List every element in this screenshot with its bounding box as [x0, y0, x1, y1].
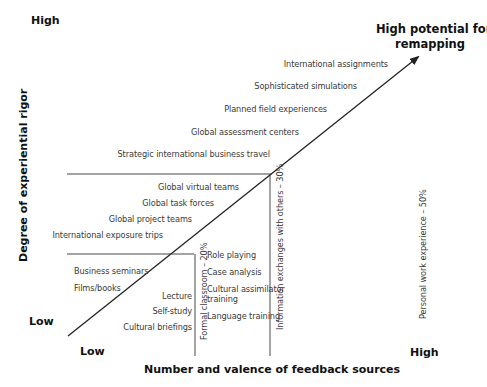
formal-classroom-item: Cultural assimilator [207, 284, 285, 294]
formal-classroom-label: Formal classroom – 20% [199, 243, 209, 340]
upper-item: Global assessment centers [191, 127, 299, 137]
lower-right-item: Self-study [152, 306, 192, 316]
middle-item: Global task forces [142, 198, 214, 208]
lower-left-item: Films/books [74, 283, 121, 293]
y-axis-high-label: High [31, 14, 60, 27]
formal-classroom-item: training [207, 294, 238, 304]
x-axis-title: Number and valence of feedback sources [144, 363, 400, 376]
middle-item: Global project teams [109, 214, 192, 224]
y-axis-low-label: Low [29, 315, 54, 328]
diagram-lines [0, 0, 487, 387]
upper-item: Strategic international business travel [118, 149, 270, 159]
personal-work-label: Personal work experience – 50% [418, 189, 428, 319]
upper-item: International assignments [284, 59, 388, 69]
upper-item: Sophisticated simulations [254, 81, 357, 91]
formal-classroom-item: Case analysis [207, 267, 262, 277]
remapping-arrow [68, 57, 418, 336]
formal-classroom-item: Role playing [207, 250, 256, 260]
arrow-label: High potential for remapping [376, 22, 484, 52]
arrow-label-line2: remapping [376, 37, 484, 52]
upper-item: Planned field experiences [224, 104, 327, 114]
y-axis-title: Degree of experiential rigor [17, 89, 30, 262]
information-exchanges-label: Information exchanges with others – 30% [275, 164, 285, 330]
middle-item: International exposure trips [52, 230, 163, 240]
formal-classroom-item: Language training [207, 311, 280, 321]
lower-right-item: Cultural briefings [123, 322, 192, 332]
lower-right-item: Lecture [162, 291, 192, 301]
middle-item: Global virtual teams [158, 182, 239, 192]
x-axis-low-label: Low [80, 345, 105, 358]
lower-left-item: Business seminars [74, 266, 148, 276]
x-axis-high-label: High [410, 346, 439, 359]
arrow-label-line1: High potential for [376, 22, 484, 37]
